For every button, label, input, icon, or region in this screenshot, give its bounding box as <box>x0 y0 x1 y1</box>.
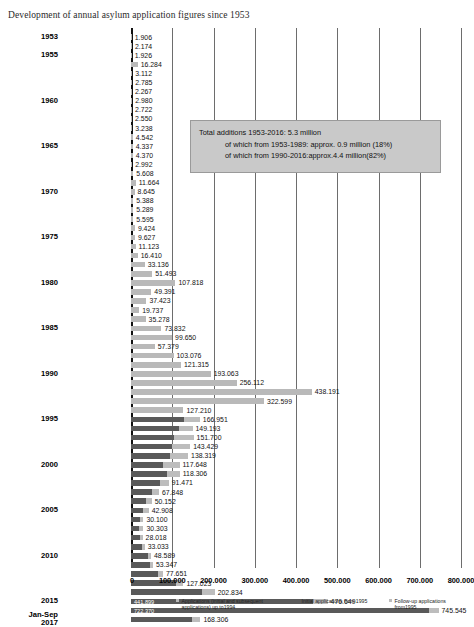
bar-value-label-1968: 5.608 <box>136 170 153 178</box>
table-row: 5.388 <box>0 197 463 206</box>
legend-follow-up-applications-from-1995[interactable]: Follow-up applications from1995 <box>389 598 463 611</box>
bar-value-label-2011: 53.347 <box>156 561 177 569</box>
table-row: 19759.627 <box>0 233 463 242</box>
table-row: 9.424 <box>0 224 463 233</box>
bar-segment-combined <box>131 371 211 377</box>
bar-segment-combined <box>131 289 151 295</box>
bar-value-label-1984: 35.278 <box>149 316 170 324</box>
table-row: 28.018 <box>0 534 463 543</box>
bar-1960 <box>131 98 132 104</box>
bar-value-label-1996: 149.193 <box>196 425 221 433</box>
bar-value-label-1974: 9.424 <box>138 225 155 233</box>
bar-segment-combined <box>131 316 146 322</box>
bar-segment-initial <box>131 526 139 532</box>
chart-legend: Applications (initial and subsequent app… <box>176 598 463 620</box>
bar-segment-combined <box>131 280 175 286</box>
bar-value-label-2007: 30.303 <box>146 525 167 533</box>
bar-segment-follow-up <box>202 589 214 595</box>
bar-1957 <box>131 71 132 77</box>
bar-segment-combined <box>131 134 133 140</box>
y-axis-label-1953: 1953 <box>0 33 58 41</box>
bar-value-label-1966: 4.370 <box>136 152 153 160</box>
bar-segment-combined <box>131 262 145 268</box>
bar-value-label-1973: 5.595 <box>136 216 153 224</box>
bar-segment-follow-up <box>142 544 144 550</box>
bar-segment-initial <box>131 435 174 441</box>
x-axis-tick-100.000: 100.000 <box>159 576 186 585</box>
table-row: 30.100 <box>0 515 463 524</box>
bar-value-label-1981: 49.391 <box>154 288 175 296</box>
bar-1985 <box>131 326 161 332</box>
bar-segment-follow-up <box>172 444 190 450</box>
bar-value-label-1993: 322.599 <box>267 398 292 406</box>
chart-plot-area: 19531.9062.17419551.92616.2843.1122.7852… <box>0 28 463 578</box>
bar-segment-combined <box>131 89 132 95</box>
bar-segment-follow-up <box>160 480 168 486</box>
bar-segment-combined <box>131 162 132 168</box>
bar-value-label-1971: 5.388 <box>136 197 153 205</box>
table-row: 143.429 <box>0 443 463 452</box>
bar-1958 <box>131 80 132 86</box>
y-axis-label-1960: 1960 <box>0 97 58 105</box>
bar-value-label-1976: 11.123 <box>139 243 160 251</box>
bar-value-label-1963: 3.238 <box>135 125 152 133</box>
table-row: 19602.980 <box>0 97 463 106</box>
bar-1997 <box>131 435 194 441</box>
legend-swatch-icon <box>296 599 299 602</box>
table-row: 200542.908 <box>0 506 463 515</box>
bar-value-label-1962: 2.550 <box>135 115 152 123</box>
table-row: 5.289 <box>0 206 463 215</box>
legend-label: Initial applications from 1995 <box>302 598 368 604</box>
bar-1981 <box>131 289 151 295</box>
table-row: 151.700 <box>0 433 463 442</box>
table-row: 121.315 <box>0 361 463 370</box>
bar-value-label-1965: 4.337 <box>136 143 153 151</box>
bar-value-label-1956: 16.284 <box>141 61 162 69</box>
table-row: 91.471 <box>0 479 463 488</box>
table-row: 16.410 <box>0 251 463 260</box>
y-axis-label-1985: 1985 <box>0 324 58 332</box>
table-row: 33.136 <box>0 261 463 270</box>
legend-applications-up-to-1994[interactable]: Applications (initial and subsequent app… <box>176 598 278 611</box>
bar-2010 <box>131 553 151 559</box>
bar-segment-initial <box>131 517 140 523</box>
y-axis-label-2000: 2000 <box>0 461 58 469</box>
table-row: 1990193.063 <box>0 370 463 379</box>
bar-segment-combined <box>131 71 132 77</box>
table-row: 118.306 <box>0 470 463 479</box>
bar-segment-combined <box>131 298 146 304</box>
bar-value-label-1987: 57.379 <box>158 343 179 351</box>
legend-initial-applications-from-1995[interactable]: Initial applications from 1995 <box>296 598 367 604</box>
bar-value-label-2010: 48.589 <box>154 552 175 560</box>
table-row: 103.076 <box>0 352 463 361</box>
legend-swatch-icon <box>389 599 392 602</box>
x-axis-tick-300.000: 300.000 <box>241 576 268 585</box>
bar-value-label-1997: 151.700 <box>197 434 222 442</box>
y-axis-label-2015: 2015 <box>0 597 58 605</box>
bar-1977 <box>131 253 138 259</box>
bar-inside-label-2015: 441.899 <box>134 598 154 606</box>
bar-1974 <box>131 225 135 231</box>
bar-segment-combined <box>131 398 264 404</box>
table-row: 16.284 <box>0 60 463 69</box>
bar-segment-combined <box>131 62 138 68</box>
bar-1990 <box>131 371 211 377</box>
bar-segment-follow-up <box>152 489 159 495</box>
bar-1975 <box>131 235 135 241</box>
y-axis-label-2010: 2010 <box>0 552 58 560</box>
bar-value-label-1961: 2.722 <box>135 106 152 114</box>
table-row: 67.848 <box>0 488 463 497</box>
bar-segment-combined <box>131 207 133 213</box>
bar-1964 <box>131 134 133 140</box>
bar-segment-combined <box>131 407 183 413</box>
bar-value-label-2009: 33.033 <box>148 543 169 551</box>
bar-2000 <box>131 462 180 468</box>
bar-segment-initial <box>131 553 148 559</box>
bar-1953 <box>131 34 132 40</box>
bar-1994 <box>131 407 183 413</box>
bar-value-label-1979: 51.493 <box>155 270 176 278</box>
bar-segment-follow-up <box>179 426 193 432</box>
bar-inside-label-2016: 722.370 <box>134 607 154 615</box>
bar-segment-combined <box>131 225 135 231</box>
bar-value-label-1970: 8.645 <box>138 188 155 196</box>
